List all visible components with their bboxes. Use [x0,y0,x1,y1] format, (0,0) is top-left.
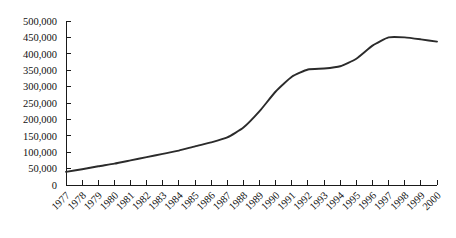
y-axis-tick-label: 250,000 [23,98,57,109]
y-axis-tick-label: 50,000 [28,163,57,174]
line-chart: 050,000100,000150,000200,000250,000300,0… [0,0,456,238]
y-axis-tick-label: 350,000 [23,65,57,76]
y-axis-tick-label: 400,000 [23,49,57,60]
x-axis-tick-labels: 1977197819791980198119821983198419851986… [49,189,443,212]
y-axis-tick-label: 200,000 [23,114,57,125]
y-axis-tick-labels: 050,000100,000150,000200,000250,000300,0… [23,16,57,191]
data-series-line [66,37,437,172]
y-axis-tick-marks [66,21,71,185]
x-axis-tick-label: 2000 [420,190,443,213]
y-axis-tick-label: 300,000 [23,81,57,92]
y-axis-tick-label: 0 [52,180,57,191]
y-axis-tick-label: 500,000 [23,16,57,27]
x-axis-tick-marks [66,180,437,185]
y-axis-tick-label: 100,000 [23,147,57,158]
y-axis-tick-label: 450,000 [23,32,57,43]
chart-canvas: 050,000100,000150,000200,000250,000300,0… [0,0,456,238]
y-axis-tick-label: 150,000 [23,131,57,142]
